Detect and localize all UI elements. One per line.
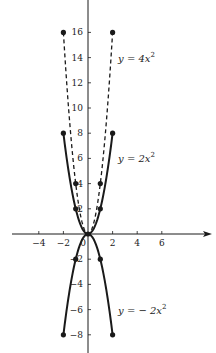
data-point	[73, 206, 78, 211]
x-tick-label: 6	[159, 238, 165, 248]
x-tick-label: −2	[57, 238, 70, 248]
y-tick-label: 12	[72, 78, 83, 88]
y-tick-label: 6	[77, 153, 83, 163]
curve-labels: y = 4x2y = 2x2y = − 2x2	[117, 51, 166, 316]
y-tick-label: 10	[72, 103, 84, 113]
y-tick-label: −8	[70, 330, 84, 340]
y-tick-label: 8	[77, 128, 83, 138]
data-point	[73, 257, 78, 262]
curve-label: y = 2x2	[117, 151, 155, 164]
parabola-chart: −4−20246161412108642−2−4−6−8 y = 4x2y = …	[0, 0, 216, 353]
data-point	[110, 332, 115, 337]
y-tick-label: 14	[72, 53, 84, 63]
curve-label: y = 4x2	[117, 51, 155, 64]
data-point	[110, 131, 115, 136]
origin-point	[85, 231, 90, 236]
data-point	[61, 30, 66, 35]
data-point	[110, 30, 115, 35]
data-point	[61, 131, 66, 136]
data-point	[61, 332, 66, 337]
y-tick-label: 16	[72, 27, 84, 37]
data-point	[98, 206, 103, 211]
y-tick-label: −6	[70, 305, 84, 315]
data-point	[73, 181, 78, 186]
x-tick-label: 4	[134, 238, 140, 248]
curve-label: y = − 2x2	[117, 303, 166, 316]
x-tick-label: −4	[32, 238, 46, 248]
data-point	[98, 181, 103, 186]
data-point	[98, 257, 103, 262]
x-tick-label: 2	[110, 238, 116, 248]
axes	[12, 0, 212, 353]
